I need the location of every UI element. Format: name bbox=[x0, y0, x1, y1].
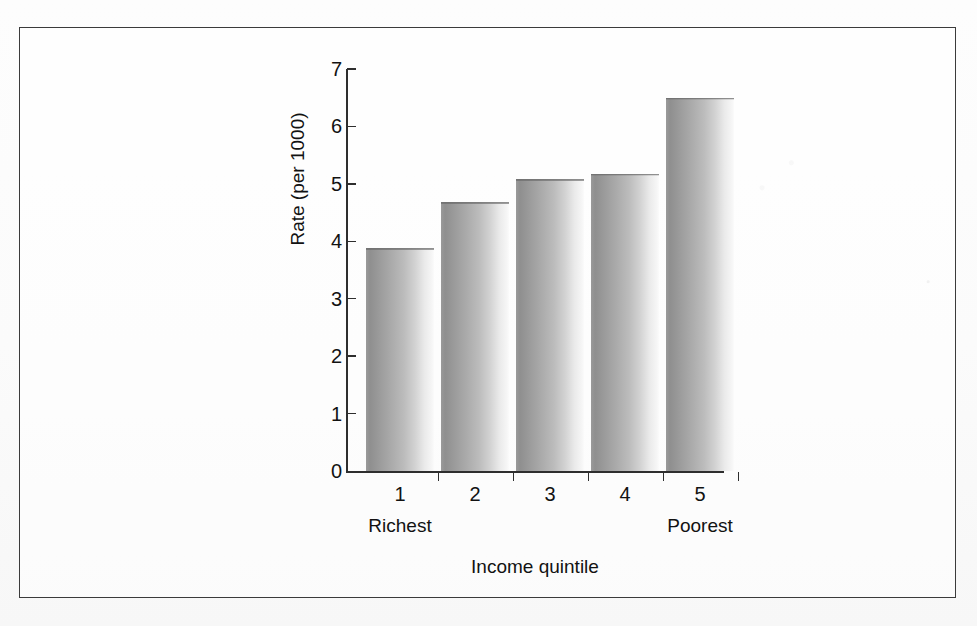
y-tick-1 bbox=[347, 413, 356, 415]
x-axis-line bbox=[346, 471, 724, 473]
x-tick-4 bbox=[663, 472, 665, 481]
y-tick-5 bbox=[347, 183, 356, 185]
y-tick-label-4: 4 bbox=[322, 231, 342, 251]
x-tick-2 bbox=[513, 472, 515, 481]
x-sublabel-richest: Richest bbox=[330, 515, 470, 537]
y-tick-label-7: 7 bbox=[322, 59, 342, 79]
y-tick-label-wrap-3: 3 bbox=[20, 289, 342, 309]
y-axis-line bbox=[346, 69, 348, 472]
bar-2 bbox=[441, 202, 509, 471]
figure-frame: 01234567 1Richest2345Poorest Income quin… bbox=[19, 27, 956, 598]
y-tick-label-1: 1 bbox=[322, 404, 342, 424]
x-sublabel-poorest: Poorest bbox=[630, 515, 770, 537]
x-tick-label-4: 4 bbox=[605, 483, 645, 505]
bar-5 bbox=[666, 98, 734, 471]
y-tick-6 bbox=[347, 126, 356, 128]
x-tick-label-1: 1 bbox=[380, 483, 420, 505]
y-tick-label-0: 0 bbox=[322, 461, 342, 481]
x-axis-title: Income quintile bbox=[346, 556, 724, 578]
bar-3 bbox=[516, 179, 584, 471]
y-tick-label-wrap-0: 0 bbox=[20, 461, 342, 481]
x-tick-label-5: 5 bbox=[680, 483, 720, 505]
y-tick-4 bbox=[347, 241, 356, 243]
y-axis-title: Rate (per 1000) bbox=[287, 69, 309, 289]
bar-4 bbox=[591, 174, 659, 471]
y-tick-label-6: 6 bbox=[322, 116, 342, 136]
y-tick-2 bbox=[347, 355, 356, 357]
x-tick-label-2: 2 bbox=[455, 483, 495, 505]
y-tick-label-wrap-2: 2 bbox=[20, 346, 342, 366]
y-tick-3 bbox=[347, 298, 356, 300]
y-tick-7 bbox=[347, 68, 356, 70]
page-background: 01234567 1Richest2345Poorest Income quin… bbox=[0, 0, 977, 626]
x-tick-5 bbox=[738, 472, 740, 481]
x-tick-1 bbox=[438, 472, 440, 481]
y-tick-label-2: 2 bbox=[322, 346, 342, 366]
x-tick-label-3: 3 bbox=[530, 483, 570, 505]
y-tick-label-3: 3 bbox=[322, 289, 342, 309]
chart-plot-area: 01234567 1Richest2345Poorest Income quin… bbox=[20, 28, 957, 599]
y-tick-label-5: 5 bbox=[322, 174, 342, 194]
x-tick-3 bbox=[588, 472, 590, 481]
bar-1 bbox=[366, 248, 434, 471]
y-tick-label-wrap-1: 1 bbox=[20, 404, 342, 424]
